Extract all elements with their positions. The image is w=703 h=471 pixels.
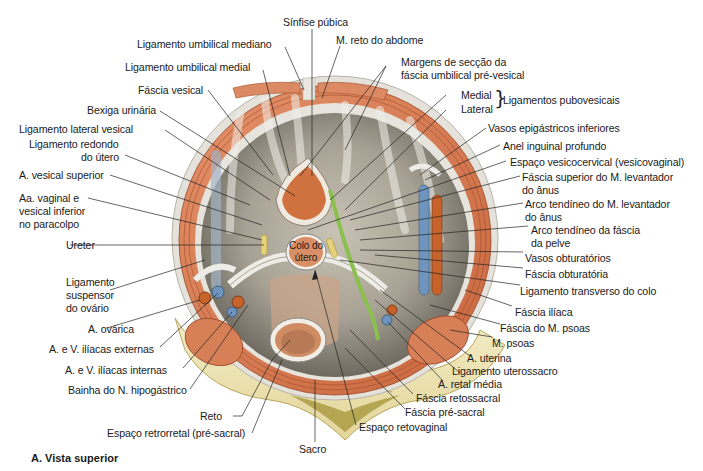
figure-caption: A. Vista superior [31, 452, 118, 464]
label-margens-seccao-2: fáscia umbilical pré-vesical [401, 69, 524, 81]
label-fascia-pre-sacral: Fáscia pré-sacral [405, 406, 485, 418]
label-lateral: Lateral [461, 103, 493, 115]
label-bainha-hipogastrico: Bainha do N. hipogástrico [68, 384, 187, 396]
label-medial: Medial [461, 89, 492, 101]
label-colo-do-utero-1: Colo do [288, 240, 324, 251]
label-aa-vaginal-3: no paracolpo [19, 218, 79, 230]
label-m-reto-do-abdome: M. reto do abdome [336, 34, 423, 46]
label-vasos-epigastricos: Vasos epigástricos inferiores [488, 122, 620, 134]
label-ligamento-suspensor-1: Ligamento [66, 276, 115, 288]
label-arco-fascia-pelve-1: Arco tendíneo da fáscia [531, 224, 640, 236]
label-ureter: Ureter [66, 239, 95, 251]
label-arco-levantador-1: Arco tendíneo do M. levantador [525, 198, 670, 210]
label-ligamento-lateral-vesical: Ligamento lateral vesical [19, 123, 133, 135]
label-a-ovarica: A. ovárica [88, 323, 134, 335]
rectum [270, 318, 326, 362]
label-fascia-psoas: Fáscia do M. psoas [500, 322, 590, 334]
label-ligamento-uterossacro: Ligamento uterossacro [452, 365, 558, 377]
label-arco-levantador-2: do ânus [525, 211, 562, 223]
label-aa-vaginal-2: vesical inferior [19, 205, 85, 217]
label-ligamento-transverso: Ligamento transverso do colo [520, 285, 656, 297]
label-espaco-retrorretal: Espaço retrorretal (pré-sacral) [107, 427, 245, 439]
label-anel-inguinal: Anel inguinal profundo [503, 140, 606, 152]
label-espaco-retovaginal: Espaço retovaginal [359, 421, 447, 433]
label-ligamento-redondo-2: do útero [81, 151, 119, 163]
label-fascia-retossacral: Fáscia retossacral [416, 392, 500, 404]
label-ligamento-umbilical-medial: Ligamento umbilical medial [125, 61, 250, 73]
label-ligamento-suspensor-3: do ovário [66, 302, 109, 314]
label-ligamento-redondo-1: Ligamento redondo [29, 138, 119, 150]
label-fascia-obturatoria: Fáscia obturatória [525, 268, 608, 280]
label-espaco-vesicocervical: Espaço vesicocervical (vesicovaginal) [510, 156, 684, 168]
label-colo-do-utero-2: útero [288, 252, 324, 263]
label-ligamentos-pubovesicais: Ligamentos pubovesicais [503, 94, 620, 106]
label-aa-vaginal-1: Aa. vaginal e [19, 192, 79, 204]
label-fascia-sup-levantador-1: Fáscia superior do M. levantador [522, 171, 673, 183]
label-reto: Reto [200, 410, 222, 422]
label-sacro: Sacro [299, 443, 326, 455]
label-sinfise-pubica: Sínfise púbica [283, 16, 348, 28]
label-vasos-obturatorios: Vasos obturatórios [525, 252, 611, 264]
label-iliacas-externas: A. e V. ilíacas externas [49, 343, 154, 355]
label-bexiga-urinaria: Bexiga urinária [87, 104, 156, 116]
pelvis-superior-view-figure: Sínfise púbica Ligamento umbilical media… [0, 0, 703, 471]
label-arco-fascia-pelve-2: da pelve [531, 237, 570, 249]
label-fascia-sup-levantador-2: do ânus [522, 184, 559, 196]
label-iliacas-internas: A. e V. ilíacas internas [65, 364, 167, 376]
label-ligamento-suspensor-2: suspensor [66, 289, 114, 301]
label-fascia-vesical: Fáscia vesical [138, 84, 203, 96]
label-m-psoas: M. psoas [492, 337, 534, 349]
label-a-vesical-superior: A. vesical superior [19, 169, 104, 181]
label-margens-seccao-1: Margens de secção da [401, 56, 506, 68]
label-ligamento-umbilical-mediano: Ligamento umbilical mediano [137, 38, 272, 50]
label-a-retal-media: A. retal média [438, 378, 502, 390]
label-a-uterina: A. uterina [467, 352, 511, 364]
label-fascia-iliaca: Fáscia ilíaca [515, 306, 573, 318]
